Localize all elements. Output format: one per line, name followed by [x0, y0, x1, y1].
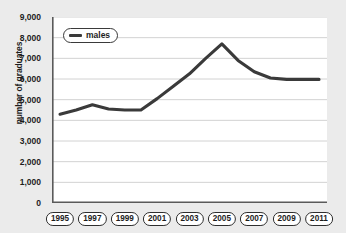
x-tick-label-pill: 1999 — [111, 212, 139, 226]
x-tick-label-text: 2009 — [278, 215, 296, 223]
x-tick-label-text: 1997 — [83, 215, 101, 223]
x-tick-label-text: 2007 — [245, 215, 263, 223]
chart-legend: males — [63, 28, 118, 43]
y-tick-label: 9,000 — [20, 12, 41, 22]
x-tick-label-text: 2001 — [148, 215, 166, 223]
y-axis-tick-labels: 01,0002,0003,0004,0005,0006,0007,0008,00… — [0, 0, 44, 233]
x-axis-tick-labels: 199519971999200120032005200720092011 — [0, 212, 346, 230]
y-tick-label: 2,000 — [20, 157, 41, 167]
x-tick-label-pill: 2001 — [143, 212, 171, 226]
x-axis-ticks — [52, 17, 319, 203]
legend-label-males: males — [86, 31, 110, 40]
x-tick-label-pill: 2005 — [208, 212, 236, 226]
y-tick-label: 4,000 — [20, 115, 41, 125]
x-tick-label-text: 1995 — [51, 215, 69, 223]
y-tick-label: 1,000 — [20, 177, 41, 187]
y-tick-label: 7,000 — [20, 53, 41, 63]
legend-swatch-males — [69, 34, 82, 37]
y-tick-label: 8,000 — [20, 33, 41, 43]
x-tick-label-pill: 2003 — [175, 212, 203, 226]
x-tick-label-pill: 2011 — [305, 212, 333, 226]
x-tick-label-pill: 1995 — [46, 212, 74, 226]
x-tick-label-text: 1999 — [116, 215, 134, 223]
x-tick-label-pill: 2007 — [240, 212, 268, 226]
y-tick-label: 3,000 — [20, 136, 41, 146]
plot-area — [52, 17, 327, 203]
y-tick-label: 0 — [36, 198, 41, 208]
x-tick-label-text: 2003 — [180, 215, 198, 223]
line-chart: number of graduates 01,0002,0003,0004,00… — [0, 0, 346, 233]
y-tick-label: 5,000 — [20, 95, 41, 105]
x-tick-label-text: 2011 — [310, 215, 328, 223]
x-tick-label-pill: 2009 — [273, 212, 301, 226]
x-tick-label-text: 2005 — [213, 215, 231, 223]
y-tick-label: 6,000 — [20, 74, 41, 84]
cropped-title-area — [0, 0, 346, 8]
x-tick-label-pill: 1997 — [78, 212, 106, 226]
plot-svg — [52, 17, 327, 203]
